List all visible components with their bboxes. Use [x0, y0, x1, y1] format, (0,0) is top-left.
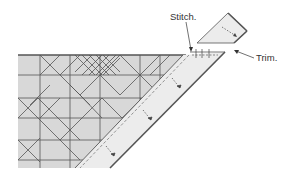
quilt-diagram	[0, 0, 294, 180]
trim-label: Trim.	[256, 53, 277, 63]
stitch-callout	[186, 22, 193, 52]
trimmed-corner	[197, 13, 247, 43]
trim-callout	[234, 50, 254, 58]
stitch-label: Stitch.	[170, 12, 196, 22]
